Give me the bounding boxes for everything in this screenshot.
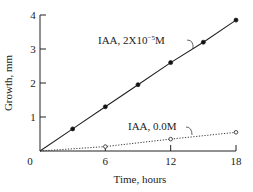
x-tick-label: 18: [231, 155, 243, 167]
x-ticks: 61218: [103, 145, 242, 167]
data-point-filled: [136, 83, 140, 87]
origin-label: 0: [27, 155, 33, 167]
control-line: [40, 132, 236, 151]
data-point-filled: [234, 18, 238, 22]
series-label-iaa-control: IAA, 0.0M: [128, 120, 177, 132]
y-ticks: 1234: [30, 9, 46, 123]
y-tick-label: 3: [30, 43, 36, 55]
y-tick-label: 4: [30, 9, 36, 21]
series-label-iaa-treated: IAA, 2X10−5M: [98, 34, 165, 46]
data-point-filled: [71, 127, 75, 131]
data-point-open: [234, 131, 238, 135]
x-tick-label: 12: [165, 155, 176, 167]
x-axis-label: Time, hours: [114, 173, 167, 185]
data-point-filled: [169, 61, 173, 65]
data-point-open: [104, 145, 108, 149]
y-tick-label: 1: [30, 111, 36, 123]
data-point-open: [169, 137, 173, 141]
data-point-filled: [103, 105, 107, 109]
series-label-leader-control: [186, 127, 192, 135]
y-axis-label: Growth, mm: [2, 54, 14, 111]
x-tick-label: 6: [103, 155, 109, 167]
growth-chart: 1234 61218 0 Time, hours Growth, mm IAA,…: [0, 0, 253, 192]
data-point-filled: [201, 40, 205, 44]
series-label-leader-treated: [187, 40, 193, 49]
y-tick-label: 2: [30, 77, 36, 89]
